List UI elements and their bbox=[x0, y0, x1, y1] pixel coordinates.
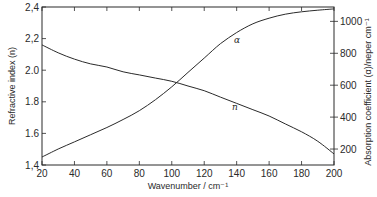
y-tick-label: 2.0 bbox=[25, 65, 39, 76]
ticks: 204060801001201401601802001,41.61.82.02,… bbox=[25, 2, 363, 180]
y2-axis-title: Absorption coefficient (α)/neper cm⁻¹ bbox=[363, 18, 373, 166]
x-axis-title: Wavenumber / cm⁻¹ bbox=[148, 181, 229, 191]
x-tick-label: 100 bbox=[163, 168, 180, 179]
x-tick-label: 80 bbox=[134, 168, 146, 179]
x-tick-label: 60 bbox=[101, 168, 113, 179]
x-tick-label: 120 bbox=[196, 168, 213, 179]
curve-label-n: n bbox=[232, 102, 238, 112]
curve-alpha bbox=[42, 9, 334, 157]
x-tick-label: 160 bbox=[261, 168, 278, 179]
y2-tick-label: 400 bbox=[340, 112, 357, 123]
y2-tick-label: 200 bbox=[340, 144, 357, 155]
x-tick-label: 200 bbox=[326, 168, 343, 179]
curve-n bbox=[42, 45, 334, 154]
y-tick-label: 1.6 bbox=[25, 128, 39, 139]
x-tick-label: 140 bbox=[228, 168, 245, 179]
y-tick-label: 2,2 bbox=[25, 33, 39, 44]
x-tick-label: 40 bbox=[69, 168, 81, 179]
chart-figure: 204060801001201401601802001,41.61.82.02,… bbox=[0, 0, 377, 197]
y2-tick-label: 600 bbox=[340, 80, 357, 91]
y2-tick-label: 800 bbox=[340, 48, 357, 59]
y-tick-label: 1,4 bbox=[25, 160, 39, 171]
y-axis-title: Refractive index (n) bbox=[7, 47, 17, 125]
y2-tick-label: 1000 bbox=[340, 16, 363, 27]
x-tick-label: 180 bbox=[293, 168, 310, 179]
y-tick-label: 2,4 bbox=[25, 2, 39, 13]
curves bbox=[42, 9, 334, 157]
curve-label-alpha: α bbox=[234, 35, 240, 45]
y-tick-label: 1.8 bbox=[25, 96, 39, 107]
chart-canvas: 204060801001201401601802001,41.61.82.02,… bbox=[0, 0, 377, 197]
